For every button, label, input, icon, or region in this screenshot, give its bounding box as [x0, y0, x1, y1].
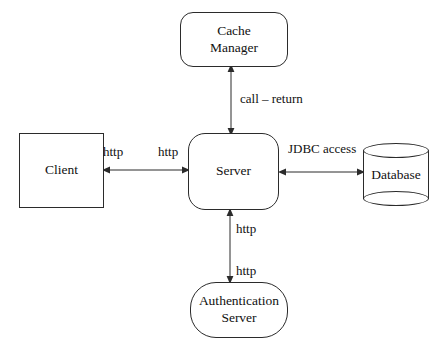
arrow-client-server: [102, 161, 190, 179]
arrow-server-database: [278, 163, 365, 181]
node-authentication-server[interactable]: Authentication Server: [190, 282, 288, 338]
node-client[interactable]: Client: [19, 133, 104, 208]
node-database[interactable]: Database: [363, 143, 429, 206]
edge-label-http-client-side: http: [103, 145, 123, 158]
edge-label-http-server-left: http: [158, 145, 178, 158]
node-database-label: Database: [363, 143, 429, 206]
node-authentication-server-label-line2: Server: [221, 310, 256, 327]
node-server-label: Server: [216, 163, 251, 180]
arrow-server-cache-manager: [222, 64, 240, 136]
edge-label-jdbc-access: JDBC access: [288, 142, 356, 155]
edge-label-http-auth-top: http: [236, 264, 256, 277]
node-client-label: Client: [45, 162, 78, 179]
diagram-canvas: Cache Manager Client Server Database Aut…: [0, 0, 444, 356]
edge-label-http-server-bottom: http: [236, 222, 256, 235]
node-cache-manager-label-line2: Manager: [210, 40, 258, 57]
edge-label-call-return: call – return: [240, 92, 303, 105]
node-server[interactable]: Server: [188, 133, 279, 210]
node-cache-manager-label-line1: Cache: [217, 23, 251, 40]
node-cache-manager[interactable]: Cache Manager: [180, 12, 288, 67]
node-authentication-server-label-line1: Authentication: [199, 293, 279, 310]
